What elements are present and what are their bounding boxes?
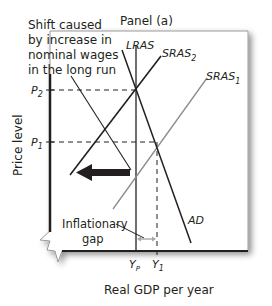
- annotation-line-2: by increase in: [28, 33, 112, 47]
- lras-label: LRAS: [126, 39, 154, 52]
- sras2-label-sub: 2: [191, 54, 196, 63]
- sras1-label-sub: 1: [235, 77, 240, 86]
- sras1-label-base: SRAS: [206, 70, 235, 83]
- gap-label-line-1: Inflationary: [62, 217, 128, 231]
- annotation-line-4: in the long run: [28, 63, 116, 77]
- x-axis-title: Real GDP per year: [104, 283, 214, 297]
- yp-label-sub: P: [136, 265, 141, 273]
- p1-label-sub: 1: [38, 142, 43, 151]
- ad-label: AD: [187, 214, 204, 227]
- y1-label: Y1: [152, 258, 164, 273]
- y-axis-title: Price level: [11, 114, 25, 176]
- gap-label-line-2: gap: [82, 232, 104, 246]
- sras2-label-base: SRAS: [162, 47, 191, 60]
- p2-label-sub: 2: [38, 90, 43, 99]
- y1-label-sub: 1: [159, 264, 164, 273]
- diagram-canvas: Panel (a) Shift caused by increase in no…: [0, 0, 272, 306]
- yp-label: YP: [129, 258, 141, 273]
- p2-label: P2: [31, 84, 43, 99]
- annotation-line-1: Shift caused: [28, 18, 102, 32]
- p1-label: P1: [31, 136, 43, 151]
- annotation-line-3: nominal wages: [28, 48, 119, 62]
- panel-title: Panel (a): [120, 14, 173, 28]
